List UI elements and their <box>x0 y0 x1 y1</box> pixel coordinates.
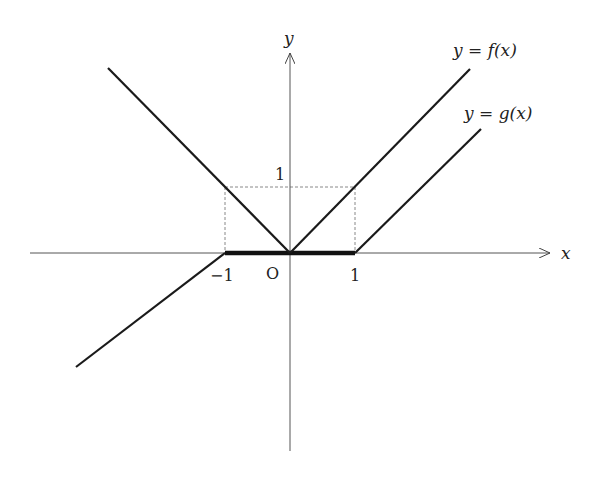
tick-x-neg-one: −1 <box>210 266 234 285</box>
origin-label: O <box>266 264 279 283</box>
curve-g-label: y = g(x) <box>463 103 532 123</box>
tick-x-one: 1 <box>350 266 360 285</box>
y-axis-label: y <box>283 28 294 48</box>
x-axis-label: x <box>561 243 571 263</box>
tick-y-one: 1 <box>275 165 285 184</box>
curve-f <box>108 68 470 253</box>
graph-canvas: y x O −1 1 1 y = f(x) y = g(x) <box>0 0 596 483</box>
curve-f-label: y = f(x) <box>452 40 517 60</box>
